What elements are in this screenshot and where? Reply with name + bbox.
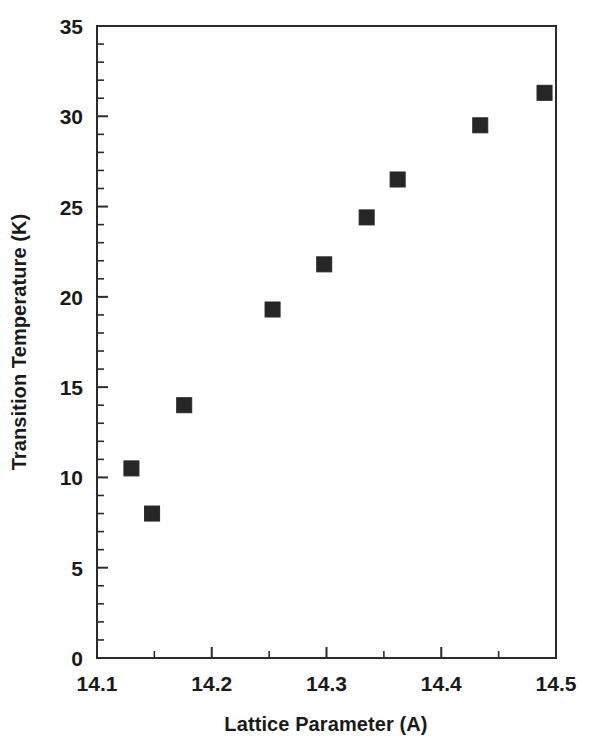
y-tick-label: 25 [60, 196, 84, 219]
data-point-marker [265, 302, 280, 317]
y-tick-label: 30 [60, 105, 83, 128]
data-point-marker [359, 210, 374, 225]
x-tick-label: 14.3 [306, 672, 347, 695]
data-point-marker [537, 85, 552, 100]
x-tick-label: 14.5 [536, 672, 577, 695]
y-tick-label: 35 [60, 15, 84, 38]
chart-background [0, 0, 593, 743]
x-tick-label: 14.2 [191, 672, 232, 695]
y-tick-label: 15 [60, 376, 84, 399]
scatter-plot: 14.114.214.314.414.5 05101520253035 Latt… [0, 0, 593, 743]
x-tick-label: 14.1 [77, 672, 118, 695]
y-axis-title: Transition Temperature (K) [8, 214, 30, 471]
data-point-marker [390, 172, 405, 187]
data-point-marker [317, 257, 332, 272]
data-point-marker [145, 506, 160, 521]
y-tick-label: 10 [60, 466, 83, 489]
data-point-marker [177, 398, 192, 413]
data-point-marker [124, 461, 139, 476]
data-point-marker [473, 118, 488, 133]
x-axis-title: Lattice Parameter (A) [224, 713, 427, 735]
x-tick-label: 14.4 [421, 672, 462, 695]
y-tick-label: 5 [71, 557, 83, 580]
chart-figure: 14.114.214.314.414.5 05101520253035 Latt… [0, 0, 593, 743]
y-tick-label: 20 [60, 286, 83, 309]
y-tick-label: 0 [71, 647, 83, 670]
